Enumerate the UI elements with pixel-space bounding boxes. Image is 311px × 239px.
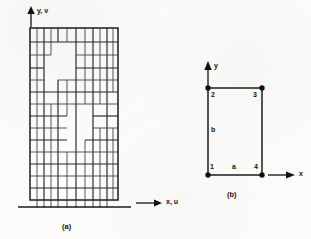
node-label-3: 3 bbox=[253, 91, 257, 98]
panel-b-x-axis bbox=[268, 171, 295, 178]
dimension-label-b: b bbox=[211, 126, 215, 133]
node-label-1: 1 bbox=[210, 163, 214, 170]
panel-b-caption: (b) bbox=[227, 190, 237, 199]
node-label-2: 2 bbox=[211, 91, 215, 98]
node-3-dot bbox=[259, 85, 264, 90]
panel-b-y-axis bbox=[204, 61, 211, 87]
element-rectangle bbox=[208, 88, 262, 175]
node-4-dot bbox=[259, 172, 264, 177]
node-label-4: 4 bbox=[254, 163, 258, 170]
node-1-dot bbox=[205, 172, 210, 177]
panel-b-y-axis-label: y bbox=[214, 62, 218, 69]
dimension-label-a: a bbox=[232, 163, 236, 170]
panel-b-x-axis-label: x bbox=[299, 170, 303, 177]
figure-canvas: y, v x, u (a) y x 2 bbox=[0, 0, 311, 239]
panel-b-graphics bbox=[0, 0, 311, 239]
node-2-dot bbox=[205, 85, 210, 90]
